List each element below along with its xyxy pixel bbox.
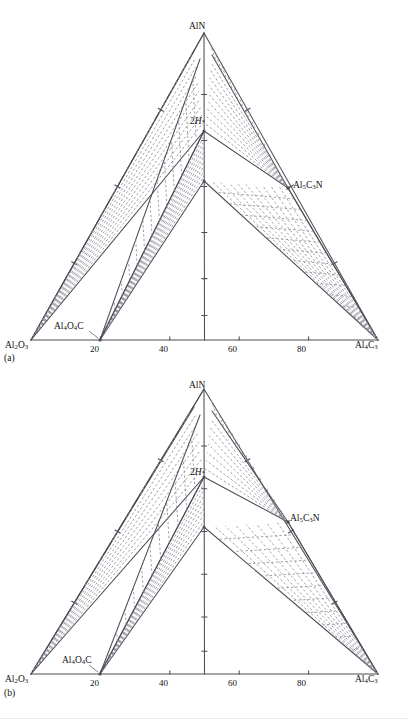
right-corner-label-b: Al4C3: [355, 675, 378, 685]
axis-tick-80-b: 80: [297, 678, 306, 688]
apex-label-a: AlN: [189, 22, 205, 32]
axis-tick-60-a: 60: [228, 344, 237, 354]
compound-label-al5c3n-a: Al5C3N: [293, 181, 323, 191]
ternary-diagram-b-svg: [0, 364, 407, 727]
axis-tick-20-a: 20: [90, 344, 99, 354]
ternary-diagram-a-svg: [0, 0, 407, 363]
apex-label-b: AlN: [189, 381, 205, 391]
panel-caption-a: (a): [4, 353, 15, 363]
axis-tick-20-b: 20: [90, 678, 99, 688]
page-seam-line: [0, 718, 407, 719]
compound-label-al4o4c-a: Al4O4C: [54, 322, 84, 332]
right-corner-label-a: Al4C3: [355, 341, 378, 351]
left-corner-label-b: Al2O3: [5, 675, 28, 685]
compound-label-al5c3n-b: Al5C3N: [290, 514, 320, 524]
phase-label-2h-a: 2H*: [190, 117, 205, 127]
phase-label-2h-b: 2H*: [190, 468, 205, 478]
phase-diagram-panel-b: AlN Al2O3 Al4C3 Al4O4C Al5C3N 2H* 20 40 …: [0, 364, 407, 727]
phase-diagram-panel-a: AlN Al2O3 Al4C3 Al4O4C Al5C3N 2H* 20 40 …: [0, 0, 407, 363]
compound-label-al4o4c-b: Al4O4C: [62, 656, 92, 666]
axis-tick-40-a: 40: [159, 344, 168, 354]
axis-tick-40-b: 40: [159, 678, 168, 688]
axis-tick-60-b: 60: [228, 678, 237, 688]
axis-tick-80-a: 80: [297, 344, 306, 354]
left-corner-label-a: Al2O3: [5, 341, 28, 351]
panel-caption-b: (b): [4, 688, 15, 698]
